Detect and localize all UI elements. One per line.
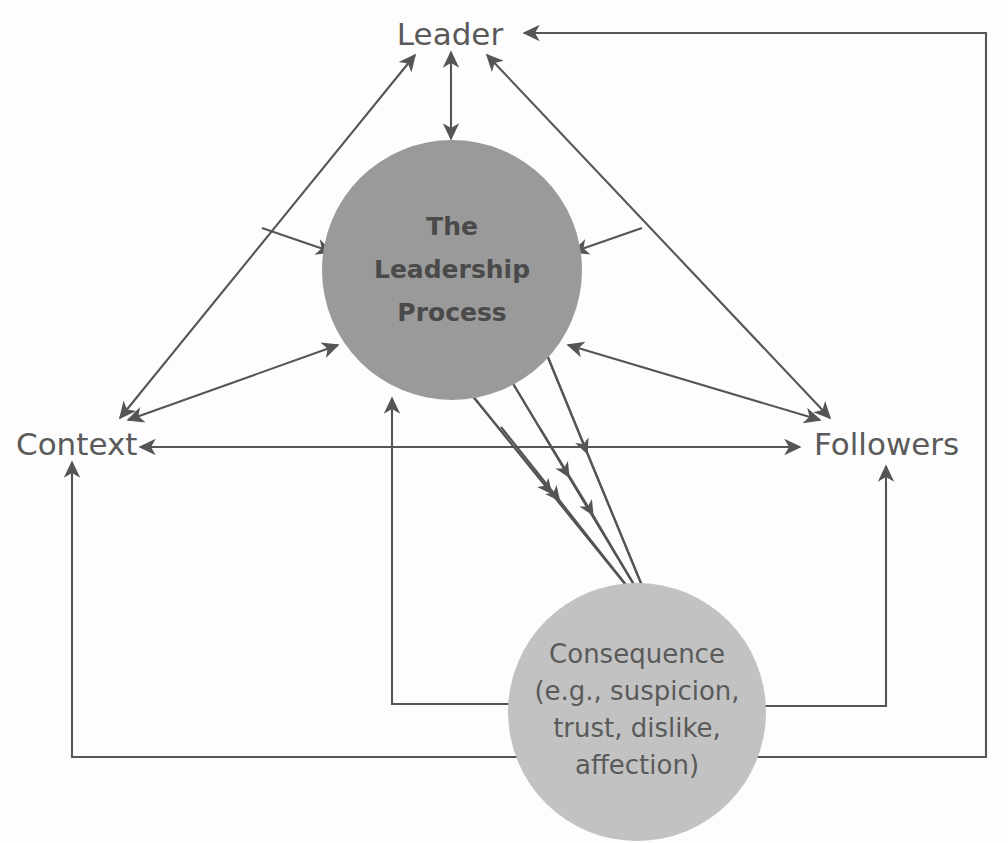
- consequence-circle-line-1: Consequence: [549, 639, 725, 669]
- edge-leader-context-branch-process: [262, 228, 332, 252]
- edge-process-consequence-3-heads: [545, 350, 643, 588]
- node-label-followers: Followers: [814, 426, 959, 462]
- edge-context-process: [128, 345, 338, 420]
- node-label-leader: Leader: [397, 16, 504, 52]
- consequence-circle-line-3: trust, dislike,: [553, 713, 721, 743]
- consequence-circle: [508, 583, 766, 841]
- process-circle-line-2: Leadership: [374, 255, 530, 284]
- leadership-process-diagram: Leader Context Followers The Leadership …: [0, 0, 1008, 843]
- edge-leader-followers-branch-process: [573, 228, 642, 252]
- consequence-circle-line-2: (e.g., suspicion,: [534, 676, 739, 706]
- edge-consequence-feedback-process: [392, 398, 520, 704]
- process-circle-line-1: The: [426, 212, 478, 241]
- diagram-canvas: Leader Context Followers The Leadership …: [0, 0, 1008, 843]
- consequence-circle-line-4: affection): [575, 750, 699, 780]
- edge-consequence-feedback-followers: [752, 466, 886, 706]
- edge-consequence-feedback-context: [72, 462, 548, 757]
- node-label-context: Context: [16, 426, 137, 462]
- process-circle-line-3: Process: [397, 298, 506, 327]
- edge-followers-process: [568, 345, 820, 420]
